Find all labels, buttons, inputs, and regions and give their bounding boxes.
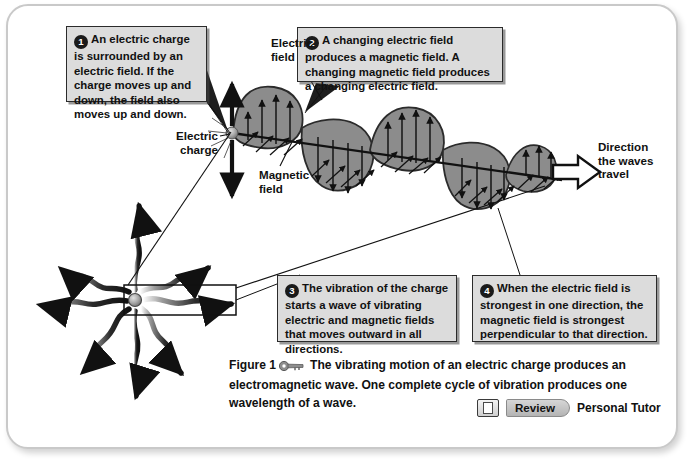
key-icon	[279, 360, 305, 377]
label-electric-field: Electric field	[271, 36, 325, 63]
callout-box-3: 3The vibration of the charge starts a wa…	[277, 275, 457, 342]
callout-number-badge-1: 1	[74, 35, 88, 49]
label-wave-direction: Direction the waves travel	[598, 140, 660, 181]
label-magnetic-field: Magnetic field	[259, 168, 319, 195]
callout-number-badge-4: 4	[480, 284, 494, 298]
callout-box-2: 2A changing electric field produces a ma…	[297, 27, 503, 82]
callout-box-4: 4When the electric field is strongest in…	[472, 275, 657, 342]
callout-number-badge-3: 3	[285, 284, 299, 298]
label-electric-charge: Electric charge	[152, 129, 218, 156]
personal-tutor-label: Personal Tutor	[577, 401, 661, 415]
figure-page: 1An electric charge is surrounded by an …	[0, 0, 692, 461]
review-button[interactable]: Review	[506, 399, 570, 417]
callout-box-1: 1An electric charge is surrounded by an …	[66, 26, 207, 102]
callout-text-1: An electric charge is surrounded by an e…	[74, 33, 191, 120]
callout-text-4: When the electric field is strongest in …	[480, 282, 648, 340]
figure-number: Figure 1	[229, 358, 276, 372]
review-page-icon	[477, 399, 499, 417]
footer-tutor-bar: Review Personal Tutor	[477, 399, 661, 417]
